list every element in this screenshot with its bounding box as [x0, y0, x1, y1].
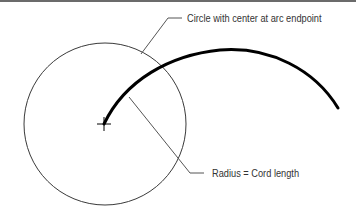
- arc-curve: [104, 50, 338, 124]
- circle-label: Circle with center at arc endpoint: [187, 12, 322, 24]
- center-crosshair-icon: [97, 117, 111, 131]
- radius-leader-line: [129, 97, 204, 173]
- diagram-canvas: [0, 0, 356, 215]
- circle-leader-line: [141, 18, 182, 54]
- radius-label: Radius = Cord length: [212, 167, 299, 179]
